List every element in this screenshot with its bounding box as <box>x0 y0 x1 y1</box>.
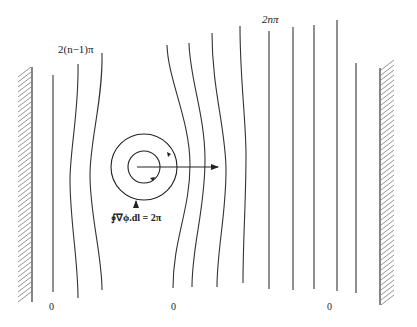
hatch-stroke <box>18 87 31 97</box>
hatch-stroke <box>381 280 394 290</box>
hatch-stroke <box>18 232 31 242</box>
left-wall <box>18 67 32 302</box>
hatch-stroke <box>18 287 31 297</box>
bottom-label-right: 0 <box>327 301 332 312</box>
bottom-label-center: 0 <box>171 301 176 312</box>
hatch-stroke <box>18 112 31 122</box>
hatch-stroke <box>381 85 394 95</box>
hatch-stroke <box>381 160 394 170</box>
left-wall-hatching <box>18 67 31 302</box>
hatch-stroke <box>381 210 394 220</box>
hatch-stroke <box>18 267 31 277</box>
hatch-stroke <box>381 200 394 210</box>
hatch-stroke <box>381 170 394 180</box>
hatch-stroke <box>18 132 31 142</box>
hatch-stroke <box>381 255 394 265</box>
hatch-stroke <box>18 72 31 82</box>
hatch-stroke <box>381 195 394 205</box>
hatch-stroke <box>18 102 31 112</box>
hatch-stroke <box>381 125 394 135</box>
phase-contour-diagram: 2(n−1)π 2nπ ∮∇ϕ.dl = 2π 0 0 0 <box>0 0 417 327</box>
hatch-stroke <box>381 245 394 255</box>
hatch-stroke <box>381 80 394 90</box>
hatch-stroke <box>381 145 394 155</box>
hatch-stroke <box>18 77 31 87</box>
hatch-stroke <box>381 290 394 300</box>
contour-line-5 <box>189 43 205 287</box>
hatch-stroke <box>381 110 394 120</box>
hatch-stroke <box>18 162 31 172</box>
contour-line-2 <box>70 64 78 298</box>
hatch-stroke <box>18 197 31 207</box>
hatch-stroke <box>381 205 394 215</box>
hatch-stroke <box>18 147 31 157</box>
hatch-stroke <box>381 130 394 140</box>
label-right-phase: 2nπ <box>262 13 279 25</box>
hatch-stroke <box>18 157 31 167</box>
hatch-stroke <box>381 135 394 145</box>
hatch-stroke <box>381 115 394 125</box>
hatch-stroke <box>381 220 394 230</box>
hatch-stroke <box>18 277 31 287</box>
hatch-stroke <box>18 177 31 187</box>
hatch-stroke <box>18 192 31 202</box>
hatch-stroke <box>18 212 31 222</box>
hatch-stroke <box>18 187 31 197</box>
right-wall <box>380 60 394 305</box>
hatch-stroke <box>381 70 394 80</box>
hatch-stroke <box>381 150 394 160</box>
vortex <box>111 134 218 207</box>
hatch-stroke <box>381 190 394 200</box>
hatch-stroke <box>381 140 394 150</box>
hatch-stroke <box>18 207 31 217</box>
hatch-stroke <box>381 75 394 85</box>
hatch-stroke <box>18 217 31 227</box>
bottom-label-left: 0 <box>49 301 54 312</box>
hatch-stroke <box>381 275 394 285</box>
hatch-stroke <box>18 292 31 302</box>
hatch-stroke <box>381 100 394 110</box>
hatch-stroke <box>18 242 31 252</box>
hatch-stroke <box>381 240 394 250</box>
hatch-stroke <box>381 230 394 240</box>
hatch-stroke <box>18 167 31 177</box>
circulation-equation: ∮∇ϕ.dl = 2π <box>111 212 162 224</box>
contour-line-6 <box>212 33 226 287</box>
hatch-stroke <box>381 285 394 295</box>
hatch-stroke <box>381 155 394 165</box>
hatch-stroke <box>381 270 394 280</box>
hatch-stroke <box>18 67 31 77</box>
hatch-stroke <box>18 137 31 147</box>
hatch-stroke <box>18 152 31 162</box>
hatch-stroke <box>18 182 31 192</box>
hatch-stroke <box>381 295 394 305</box>
hatch-stroke <box>18 237 31 247</box>
outer-circulation-arrow-icon <box>167 152 171 157</box>
hatch-stroke <box>18 257 31 267</box>
hatch-stroke <box>18 142 31 152</box>
hatch-stroke <box>381 185 394 195</box>
hatch-stroke <box>18 122 31 132</box>
hatch-stroke <box>381 215 394 225</box>
label-left-phase: 2(n−1)π <box>58 43 94 56</box>
hatch-stroke <box>381 95 394 105</box>
hatch-stroke <box>18 282 31 292</box>
hatch-stroke <box>18 92 31 102</box>
hatch-stroke <box>381 60 394 70</box>
hatch-stroke <box>381 260 394 270</box>
hatch-stroke <box>381 90 394 100</box>
hatch-stroke <box>18 202 31 212</box>
hatch-stroke <box>381 105 394 115</box>
phase-contours <box>53 20 356 298</box>
hatch-stroke <box>18 252 31 262</box>
contour-line-3 <box>90 53 102 290</box>
hatch-stroke <box>381 165 394 175</box>
hatch-stroke <box>18 82 31 92</box>
hatch-stroke <box>18 272 31 282</box>
hatch-stroke <box>381 225 394 235</box>
hatch-stroke <box>18 227 31 237</box>
hatch-stroke <box>18 127 31 137</box>
right-wall-hatching <box>381 60 394 305</box>
hatch-stroke <box>381 235 394 245</box>
hatch-stroke <box>381 265 394 275</box>
